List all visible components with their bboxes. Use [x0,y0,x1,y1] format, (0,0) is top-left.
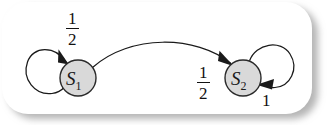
fraction-bar [197,82,210,83]
state-label-s2: S2 [231,68,247,94]
fraction-numerator: 1 [197,64,210,82]
edge-s1-self-arrowhead [58,49,69,64]
fraction-denominator: 2 [197,84,210,102]
edge-s1-to-s2 [93,42,232,67]
state-label-s1: S1 [66,68,82,94]
transition-label-s1-to-s2: 1 2 [197,64,210,102]
state-diagram [0,0,334,125]
state-label-s2-name: S [231,68,241,89]
state-label-s1-name: S [66,68,76,89]
transition-label-s2-self: 1 [262,92,271,109]
transition-label-s1-self: 1 2 [66,10,79,48]
fraction-one-half: 1 2 [197,64,210,102]
state-label-s2-subscript: 2 [241,79,247,93]
figure-canvas: S1 S2 1 2 1 2 1 [0,0,334,125]
fraction-numerator: 1 [66,10,79,28]
state-label-s1-subscript: 1 [76,79,82,93]
fraction-denominator: 2 [66,30,79,48]
fraction-one-half: 1 2 [66,10,79,48]
fraction-bar [66,28,79,29]
